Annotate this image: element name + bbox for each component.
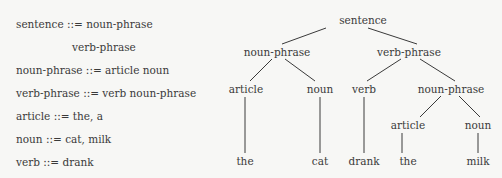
tree-node: article (390, 119, 426, 131)
tree-edge (367, 59, 401, 81)
tree-node: verb-phrase (376, 46, 442, 58)
tree-node: noun-phrase (417, 83, 486, 95)
tree-node: drank (347, 155, 380, 167)
tree-edge (282, 28, 326, 44)
tree-node: article (228, 83, 264, 95)
tree-edge (459, 96, 480, 117)
tree-node: the (398, 155, 417, 167)
tree-edge (250, 59, 272, 81)
tree-node: verb (351, 83, 377, 95)
tree-node: noun (306, 83, 335, 95)
tree-node: noun-phrase (243, 46, 312, 58)
tree-node: cat (311, 155, 329, 167)
tree-node: the (235, 155, 254, 167)
tree-node: milk (465, 155, 490, 167)
tree-edge (285, 59, 315, 81)
tree-node: noun (464, 119, 493, 131)
tree-edge (420, 96, 441, 117)
tree-edge (420, 59, 455, 81)
tree-edge (368, 28, 417, 44)
tree-node: sentence (338, 14, 388, 26)
